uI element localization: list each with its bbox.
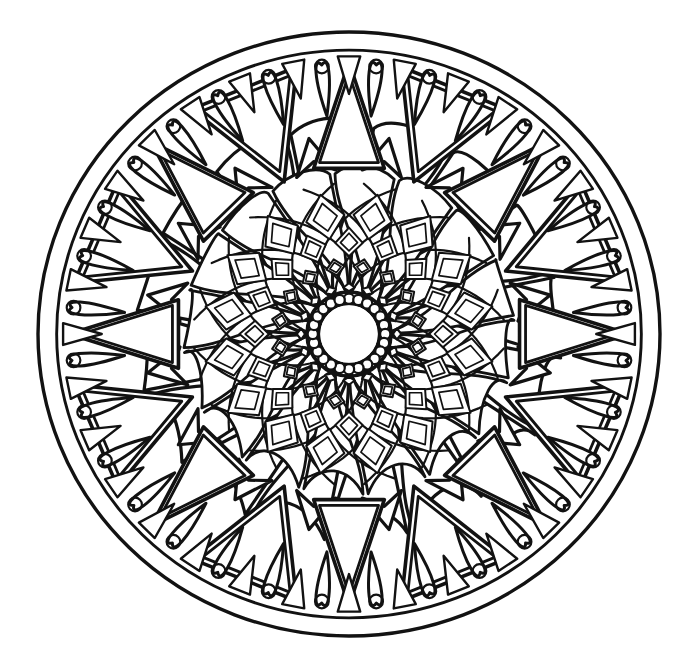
mandala-page xyxy=(0,0,699,666)
center-disc-group xyxy=(320,305,377,362)
center-bead xyxy=(334,295,344,305)
mandala-illustration xyxy=(0,0,699,666)
center-blank-disc xyxy=(320,305,377,362)
